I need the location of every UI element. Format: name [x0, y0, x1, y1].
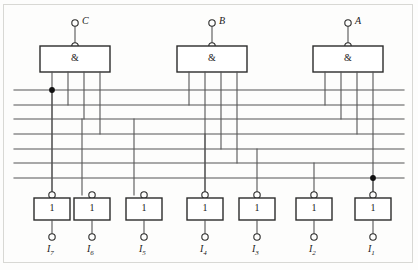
output-label-sub-I1: 1 [371, 249, 375, 257]
output-terminal-I1 [370, 234, 376, 240]
circuit-wiring-layer [0, 0, 418, 270]
output-label-I1: I1 [368, 243, 375, 257]
output-gate-input-terminal-I4 [202, 192, 208, 198]
input-terminal-A [345, 20, 351, 26]
output-gate-input-terminal-I6 [89, 192, 95, 198]
output-terminal-I4 [202, 234, 208, 240]
and-gate-symbol-and-a: & [313, 52, 383, 63]
output-label-I2: I2 [309, 243, 316, 257]
output-gate-input-terminal-I2 [311, 192, 317, 198]
output-label-I5: I5 [139, 243, 146, 257]
output-terminal-I2 [311, 234, 317, 240]
output-gate-symbol-I5: 1 [126, 202, 162, 213]
output-gate-symbol-I6: 1 [74, 202, 110, 213]
output-terminal-I3 [254, 234, 260, 240]
output-label-I6: I6 [87, 243, 94, 257]
wire-junction-1 [49, 87, 55, 93]
output-label-sub-I5: 5 [142, 249, 146, 257]
output-terminal-I6 [89, 234, 95, 240]
output-gate-symbol-I7: 1 [34, 202, 70, 213]
output-gate-symbol-I1: 1 [355, 202, 391, 213]
output-label-I4: I4 [200, 243, 207, 257]
wire-junction-2 [370, 175, 376, 181]
input-terminal-B [209, 20, 215, 26]
input-label-C: C [82, 15, 89, 26]
and-gate-symbol-and-b: & [177, 52, 247, 63]
and-gate-symbol-and-c: & [40, 52, 110, 63]
input-terminal-C [72, 20, 78, 26]
output-gate-input-terminal-I3 [254, 192, 260, 198]
circuit-diagram-canvas: CBA&&&1I71I61I51I41I31I21I1 [0, 0, 418, 270]
output-gate-input-terminal-I7 [49, 192, 55, 198]
output-label-I7: I7 [47, 243, 54, 257]
input-label-B: B [219, 15, 225, 26]
output-gate-input-terminal-I5 [141, 192, 147, 198]
output-terminal-I5 [141, 234, 147, 240]
output-label-I3: I3 [252, 243, 259, 257]
output-label-sub-I2: 2 [312, 249, 316, 257]
output-gate-input-terminal-I1 [370, 192, 376, 198]
output-gate-symbol-I3: 1 [239, 202, 275, 213]
input-label-A: A [355, 15, 361, 26]
output-gate-symbol-I2: 1 [296, 202, 332, 213]
output-label-sub-I6: 6 [90, 249, 94, 257]
output-terminal-I7 [49, 234, 55, 240]
output-label-sub-I3: 3 [255, 249, 259, 257]
output-label-sub-I7: 7 [50, 249, 54, 257]
output-label-sub-I4: 4 [203, 249, 207, 257]
output-gate-symbol-I4: 1 [187, 202, 223, 213]
